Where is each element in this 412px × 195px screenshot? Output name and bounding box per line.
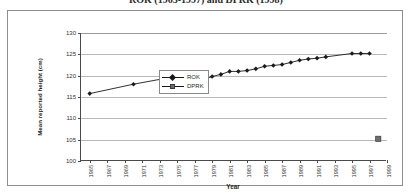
x-tick-mark <box>387 160 388 163</box>
square-marker-icon <box>162 82 184 91</box>
y-tick-label: 110 <box>66 115 76 121</box>
series-layer <box>81 33 387 161</box>
x-tick-label: 1989 <box>299 165 305 177</box>
x-tick-label: 1995 <box>352 165 358 177</box>
x-tick-label: 1971 <box>142 165 148 177</box>
data-point-rok <box>227 69 232 74</box>
data-point-rok <box>289 60 294 65</box>
data-point-rok <box>350 51 355 56</box>
data-point-rok <box>254 67 259 72</box>
x-tick-label: 1997 <box>369 165 375 177</box>
data-point-rok <box>87 91 92 96</box>
x-tick-label: 1981 <box>229 165 235 177</box>
data-point-rok <box>358 51 363 56</box>
y-tick-label: 120 <box>66 73 76 79</box>
x-tick-label: 1979 <box>212 165 218 177</box>
plot-area: 100105110115120125130 196519671969197119… <box>80 33 386 161</box>
data-point-rok <box>306 57 311 62</box>
data-point-dprk <box>376 136 381 141</box>
y-tick-label: 130 <box>66 30 76 36</box>
x-tick-label: 1977 <box>194 165 200 177</box>
chart-frame: Mean reported height (cm) 10010511011512… <box>7 10 403 186</box>
data-point-rok <box>131 82 136 87</box>
legend-label-dprk: DPRK <box>184 82 204 91</box>
x-tick-label: 1969 <box>125 165 131 177</box>
x-tick-label: 1987 <box>282 165 288 177</box>
legend-label-rok: ROK <box>184 73 200 82</box>
data-point-rok <box>297 58 302 63</box>
data-point-rok <box>262 64 267 69</box>
chart-page: ROK (1965-1997) and DPRK (1998) Mean rep… <box>0 0 412 195</box>
y-tick-label: 125 <box>66 51 76 57</box>
x-tick-label: 1975 <box>177 165 183 177</box>
data-point-rok <box>210 74 215 79</box>
data-point-rok <box>271 63 276 68</box>
y-tick-mark <box>78 161 81 162</box>
data-point-rok <box>367 51 372 56</box>
x-tick-label: 1991 <box>317 165 323 177</box>
data-point-rok <box>324 55 329 60</box>
legend-item-dprk: DPRK <box>162 82 204 91</box>
y-tick-label: 115 <box>66 94 76 100</box>
x-tick-label: 1993 <box>334 165 340 177</box>
x-tick-label: 1967 <box>107 165 113 177</box>
x-tick-label: 1965 <box>90 165 96 177</box>
data-point-rok <box>219 72 224 77</box>
chart-title: ROK (1965-1997) and DPRK (1998) <box>0 0 412 6</box>
data-point-rok <box>236 69 241 74</box>
y-tick-label: 105 <box>66 137 76 143</box>
data-point-rok <box>245 68 250 73</box>
x-tick-label: 1983 <box>247 165 253 177</box>
legend-item-rok: ROK <box>162 73 204 82</box>
data-point-rok <box>280 62 285 67</box>
x-axis-title: Year <box>80 183 386 190</box>
y-axis-title: Mean reported height (cm) <box>34 33 45 161</box>
data-point-rok <box>315 56 320 61</box>
y-tick-label: 100 <box>66 158 76 164</box>
diamond-marker-icon <box>162 73 184 82</box>
x-tick-label: 1985 <box>264 165 270 177</box>
x-tick-label: 1973 <box>159 165 165 177</box>
chart-legend: ROK DPRK <box>159 70 209 94</box>
x-tick-label: 1999 <box>387 165 393 177</box>
